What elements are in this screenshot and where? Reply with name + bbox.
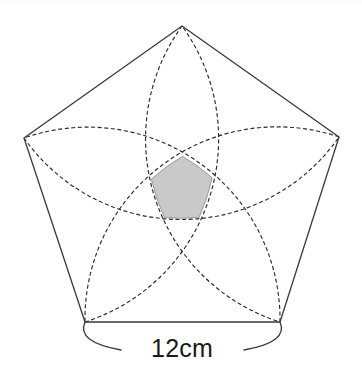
- dimension-label: 12cm: [151, 334, 213, 362]
- geometry-figure: 12cm: [0, 0, 362, 378]
- pentagon-arc-diagram: 12cm: [0, 0, 362, 378]
